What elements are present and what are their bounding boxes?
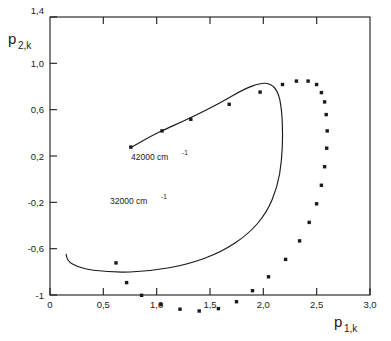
x-tick-label: 0 [47, 299, 52, 310]
data-point [284, 258, 287, 261]
data-point [315, 202, 318, 205]
x-tick-label: 1,5 [203, 299, 216, 310]
data-point [295, 79, 298, 82]
data-point [228, 103, 231, 106]
y-axis-title-main: p [8, 30, 16, 47]
annotation-upper-superscript: -1 [182, 149, 188, 156]
x-axis-ticks [50, 17, 370, 295]
annotation-upper-branch: 42000 cm -1 [131, 149, 188, 162]
data-point [129, 145, 132, 148]
data-point [323, 165, 326, 168]
y-tick-label: -1 [36, 290, 44, 301]
chart-page: 0 0,5 1,0 1,5 2,0 2,5 3,0 1,4 1,0 0,6 0,… [0, 0, 391, 341]
annotation-upper-text: 42000 cm [131, 152, 168, 162]
data-point [308, 221, 311, 224]
y-tick-label: -0,2 [28, 197, 44, 208]
x-axis-title: p 1,k [334, 313, 358, 334]
data-point [325, 113, 328, 116]
data-point [315, 83, 318, 86]
x-tick-label: 2,5 [310, 299, 323, 310]
data-point [298, 239, 301, 242]
x-tick-label: 3,0 [363, 299, 376, 310]
plot-frame [50, 17, 370, 295]
data-point [267, 275, 270, 278]
data-series-dispersion-curve [66, 79, 329, 312]
annotation-lower-superscript: -1 [161, 193, 167, 200]
data-point [320, 91, 323, 94]
data-point [189, 118, 192, 121]
y-axis-title-subscript: 2,k [18, 40, 32, 51]
x-tick-labels: 0 0,5 1,0 1,5 2,0 2,5 3,0 [47, 299, 376, 310]
y-tick-label: 0,6 [31, 104, 44, 115]
data-point [178, 308, 181, 311]
data-point [235, 300, 238, 303]
data-point [325, 147, 328, 150]
data-point [306, 79, 309, 82]
data-point [125, 281, 128, 284]
data-point [160, 129, 163, 132]
annotation-lower-branch: 32000 cm -1 [110, 193, 167, 206]
annotation-lower-text: 32000 cm [110, 196, 147, 206]
data-point [323, 100, 326, 103]
y-tick-label: -0,6 [28, 243, 44, 254]
y-axis-ticks [50, 17, 57, 295]
data-point [251, 289, 254, 292]
y-tick-label: 0,2 [31, 151, 44, 162]
data-point [258, 90, 261, 93]
y-axis-title: p 2,k [8, 30, 32, 51]
data-point [281, 83, 284, 86]
x-axis-title-main: p [334, 313, 342, 330]
y-tick-label: 1,4 [31, 5, 44, 16]
data-point [198, 309, 201, 312]
data-point [140, 294, 143, 297]
x-tick-label: 0,5 [97, 299, 110, 310]
data-point [217, 307, 220, 310]
curve-path [66, 83, 282, 272]
data-point [326, 129, 329, 132]
data-point [114, 261, 117, 264]
x-tick-label: 2,0 [257, 299, 270, 310]
dispersion-scatter-chart: 0 0,5 1,0 1,5 2,0 2,5 3,0 1,4 1,0 0,6 0,… [0, 0, 391, 341]
data-point [159, 303, 162, 306]
y-tick-label: 1,0 [31, 58, 44, 69]
x-axis-title-subscript: 1,k [344, 323, 358, 334]
data-point [320, 184, 323, 187]
